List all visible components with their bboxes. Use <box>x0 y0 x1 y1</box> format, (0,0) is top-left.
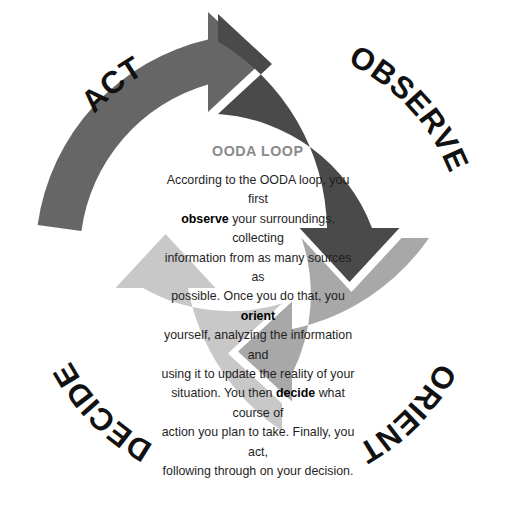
center-text-panel: OODA LOOP According to the OODA loop, yo… <box>152 142 364 374</box>
center-body-line: using it to update the reality of your <box>161 364 355 383</box>
segment-decide-label-text: DECIDE <box>46 357 157 469</box>
center-body-line: yourself, analyzing the information and <box>161 325 355 364</box>
center-body-line: possible. Once you do that, you orient <box>161 286 355 325</box>
segment-decide-label: DECIDE <box>46 357 157 469</box>
center-title: OODA LOOP <box>212 142 304 160</box>
ooda-loop-diagram: ACT OBSERVE ORIENT DECIDE OODA LOOP Ac <box>0 0 514 515</box>
center-body-line: information from as many sources as <box>161 248 355 287</box>
center-body-line: situation. You then decide what course o… <box>161 383 355 422</box>
center-body-text: According to the OODA loop, you firstobs… <box>161 170 355 481</box>
segment-orient-label-text: ORIENT <box>353 358 464 470</box>
center-body-line: action you plan to take. Finally, you ac… <box>161 422 355 461</box>
segment-orient-label: ORIENT <box>353 358 464 470</box>
center-body-line: observe your surroundings, collecting <box>161 209 355 248</box>
center-body-line: According to the OODA loop, you first <box>161 170 355 209</box>
center-body-line: following through on your decision. <box>161 461 355 480</box>
